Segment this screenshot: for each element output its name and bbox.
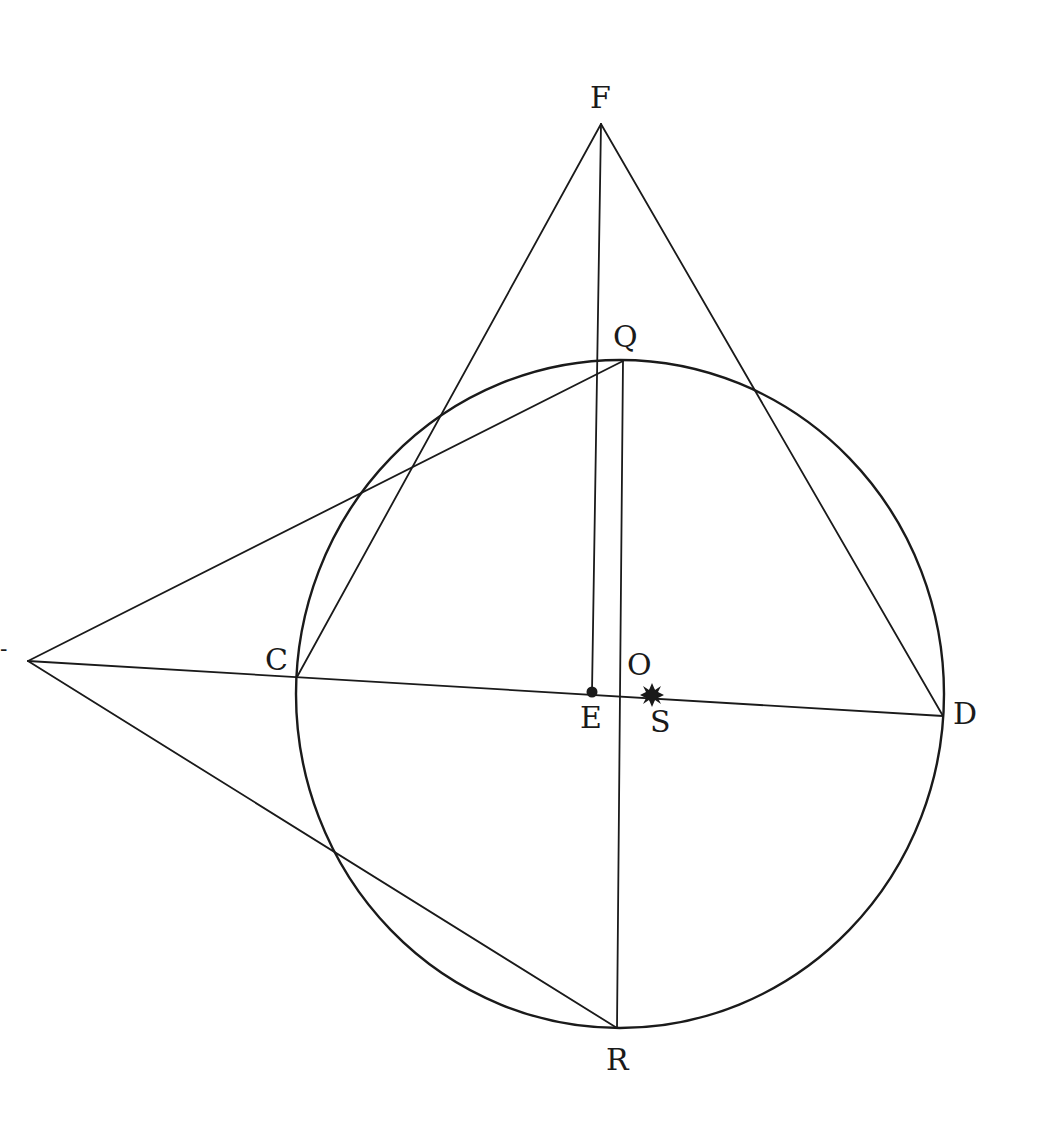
label-c: C (265, 642, 288, 677)
segment-td (28, 661, 943, 716)
point-e-dot (587, 687, 598, 698)
label-f: F (590, 80, 611, 115)
label-e: E (580, 700, 602, 735)
geometry-diagram: F Q C O E S D R - (0, 0, 1042, 1136)
label-r: R (606, 1042, 630, 1077)
label-s: S (650, 704, 671, 739)
segment-fe (592, 124, 601, 692)
label-o: O (627, 647, 652, 682)
segment-fd (601, 124, 943, 716)
label-q: Q (613, 319, 638, 354)
label-t-fragment: - (0, 636, 7, 661)
segment-fc (297, 124, 601, 677)
segment-qr (617, 361, 623, 1028)
label-d: D (953, 696, 977, 731)
segment-tq (28, 361, 623, 661)
segment-tr (28, 661, 617, 1028)
